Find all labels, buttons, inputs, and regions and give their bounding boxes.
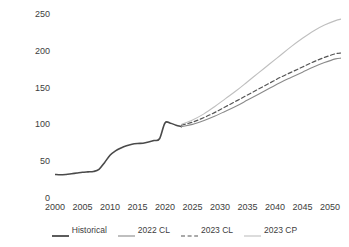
legend-item-2022-cl[interactable]: 2022 CL [118,225,170,235]
legend-swatch-icon [52,226,69,234]
y-axis-tick: 150 [20,83,50,93]
legend-item-historical[interactable]: Historical [52,225,107,235]
legend-swatch-icon [118,226,135,234]
x-axis-tick-labels: 2000200520102015202020252030203520402045… [55,201,341,215]
y-axis-tick: 50 [20,156,50,166]
legend-item-2023-cp[interactable]: 2023 CP [244,225,297,235]
series-line-2022-cl [182,58,342,126]
plot-area [55,14,341,198]
y-axis-tick: 200 [20,46,50,56]
series-line-2023-cl [182,53,342,125]
series-line-historical [55,122,182,175]
legend-label: 2022 CL [138,225,170,235]
legend-label: Historical [72,225,107,235]
y-axis-tick: 250 [20,9,50,19]
legend-label: 2023 CL [201,225,233,235]
y-axis-tick: 100 [20,119,50,129]
chart-container: GDP 대비 비율 050100150200250 20002005201020… [0,0,349,247]
legend-swatch-icon [181,226,198,234]
legend-label: 2023 CP [264,225,297,235]
legend-swatch-icon [244,226,261,234]
chart-legend: Historical2022 CL2023 CL2023 CP [0,222,349,238]
chart-plot-svg [55,14,341,198]
legend-item-2023-cl[interactable]: 2023 CL [181,225,233,235]
series-line-2023-cp [182,19,342,124]
x-axis-tick: 2050 [310,201,349,213]
